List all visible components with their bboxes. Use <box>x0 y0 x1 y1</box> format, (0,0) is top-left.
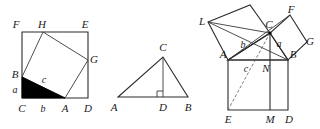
label-point-f-right: F <box>287 3 295 15</box>
label-point-g-right: G <box>306 35 314 47</box>
label-point-e: E <box>81 18 89 30</box>
label-point-c-mid: C <box>159 41 167 53</box>
label-point-m: M <box>264 113 275 125</box>
label-point-n: N <box>261 62 270 74</box>
geometry-figure-svg: F H E G B c a C b A D C A D B <box>0 0 320 129</box>
label-side-a-right: a <box>277 38 282 49</box>
label-point-b-right: B <box>290 48 297 60</box>
label-point-c-right: C <box>265 18 273 30</box>
square-on-hypotenuse-abde <box>228 60 288 110</box>
label-side-c: c <box>42 74 47 85</box>
label-point-f: F <box>12 18 20 30</box>
label-point-b: B <box>12 68 19 80</box>
label-point-d-right: D <box>284 113 293 125</box>
label-point-a: A <box>61 102 69 114</box>
label-point-a-right: A <box>219 48 227 60</box>
label-point-d: D <box>83 102 92 114</box>
label-point-l: L <box>198 15 205 27</box>
label-point-b-mid: B <box>185 101 192 113</box>
label-side-a: a <box>13 84 18 95</box>
label-point-h: H <box>37 18 47 30</box>
label-side-c-right: c <box>244 63 249 74</box>
panel-middle-group: C A D B <box>110 41 192 113</box>
label-point-c: C <box>18 102 26 114</box>
label-point-g: G <box>90 53 98 65</box>
segment-lc <box>208 22 270 33</box>
label-point-a-mid: A <box>110 101 118 113</box>
label-side-b-right: b <box>241 39 246 50</box>
label-side-b: b <box>41 103 46 114</box>
panel-left-group: F H E G B c a C b A D <box>12 18 98 114</box>
label-point-d-mid: D <box>158 101 167 113</box>
diagram-canvas: F H E G B c a C b A D C A D B <box>0 0 320 129</box>
panel-right-group: L C F b a G A B c N E M D <box>198 3 314 125</box>
triangle-abc <box>118 57 188 97</box>
vertex-dot-c <box>268 31 271 34</box>
right-angle-mark-d <box>157 91 163 97</box>
label-point-e-right: E <box>224 113 232 125</box>
